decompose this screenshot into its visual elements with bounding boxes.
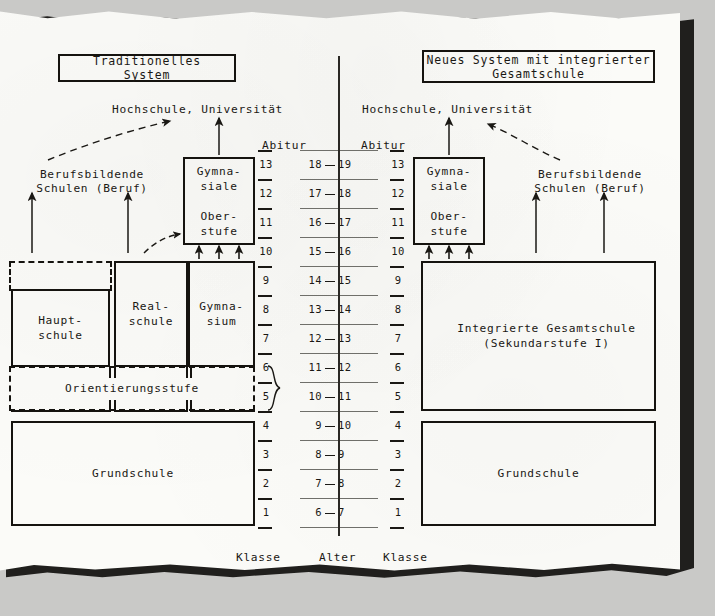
klasse-left-value-1: 1 (259, 506, 273, 518)
alter-dash-11 (325, 484, 335, 485)
klasse-right-value-10: 10 (391, 245, 405, 257)
alter-dash-9 (325, 426, 335, 427)
klasse-tick-left-10 (258, 440, 272, 442)
alter-from-value-12: 12 (300, 332, 322, 344)
klasse-left-value-10: 10 (259, 245, 273, 257)
axis-label-alter: Alter (319, 551, 356, 565)
klasse-right-value-7: 7 (391, 332, 405, 344)
alter-to-value-13: 13 (338, 332, 360, 344)
klasse-tick-right-11 (390, 469, 404, 471)
alter-to-value-19: 19 (338, 158, 360, 170)
alter-to-value-11: 11 (338, 390, 360, 402)
alter-dash-1 (325, 194, 335, 195)
klasse-left-value-4: 4 (259, 419, 273, 431)
alter-dash-12 (325, 513, 335, 514)
klasse-tick-right-6 (390, 324, 404, 326)
center-axis-line (338, 56, 340, 536)
klasse-tick-left-1 (258, 179, 272, 181)
alter-dash-7 (325, 368, 335, 369)
klasse-right-value-13: 13 (391, 158, 405, 170)
klasse-tick-left-9 (258, 411, 272, 413)
klasse-tick-left-7 (258, 353, 272, 355)
klasse-tick-right-8 (390, 382, 404, 384)
klasse-tick-right-0 (390, 150, 404, 152)
diagram-page: Traditionelles System Neues System mit i… (0, 0, 715, 616)
alter-from-value-16: 16 (300, 216, 322, 228)
klasse-tick-right-12 (390, 498, 404, 500)
klasse-tick-right-1 (390, 179, 404, 181)
klasse-right-value-1: 1 (391, 506, 405, 518)
klasse-tick-right-4 (390, 266, 404, 268)
klasse-left-value-9: 9 (259, 274, 273, 286)
alter-dash-2 (325, 223, 335, 224)
alter-from-value-7: 7 (300, 477, 322, 489)
klasse-right-value-11: 11 (391, 216, 405, 228)
alter-dash-4 (325, 281, 335, 282)
klasse-right-value-4: 4 (391, 419, 405, 431)
klasse-tick-left-3 (258, 237, 272, 239)
klasse-right-value-9: 9 (391, 274, 405, 286)
alter-dash-6 (325, 339, 335, 340)
klasse-tick-left-5 (258, 295, 272, 297)
klasse-left-value-13: 13 (259, 158, 273, 170)
klasse-left-value-11: 11 (259, 216, 273, 228)
klasse-left-value-5: 5 (259, 390, 273, 402)
axis-label-klasse-left: Klasse (236, 551, 281, 565)
alter-dash-5 (325, 310, 335, 311)
alter-to-value-9: 9 (338, 448, 360, 460)
alter-from-value-11: 11 (300, 361, 322, 373)
alter-to-value-7: 7 (338, 506, 360, 518)
klasse-tick-left-6 (258, 324, 272, 326)
alter-to-value-17: 17 (338, 216, 360, 228)
klasse-tick-right-13 (390, 527, 404, 529)
klasse-tick-right-5 (390, 295, 404, 297)
alter-to-value-16: 16 (338, 245, 360, 257)
klasse-right-value-12: 12 (391, 187, 405, 199)
klasse-tick-right-9 (390, 411, 404, 413)
age-class-scale: 1313181912121718111116171010151699141588… (0, 0, 715, 616)
alter-to-value-14: 14 (338, 303, 360, 315)
klasse-tick-left-12 (258, 498, 272, 500)
klasse-tick-left-2 (258, 208, 272, 210)
alter-from-value-9: 9 (300, 419, 322, 431)
klasse-left-value-3: 3 (259, 448, 273, 460)
klasse-left-value-2: 2 (259, 477, 273, 489)
klasse-left-value-6: 6 (259, 361, 273, 373)
alter-dash-3 (325, 252, 335, 253)
alter-to-value-12: 12 (338, 361, 360, 373)
alter-from-value-17: 17 (300, 187, 322, 199)
drawing-canvas: Traditionelles System Neues System mit i… (0, 0, 715, 616)
alter-dash-8 (325, 397, 335, 398)
alter-from-value-6: 6 (300, 506, 322, 518)
axis-label-klasse-right: Klasse (383, 551, 428, 565)
klasse-tick-left-11 (258, 469, 272, 471)
klasse-tick-left-4 (258, 266, 272, 268)
klasse-right-value-3: 3 (391, 448, 405, 460)
klasse-tick-right-2 (390, 208, 404, 210)
alter-dash-10 (325, 455, 335, 456)
klasse-tick-right-3 (390, 237, 404, 239)
klasse-tick-left-8 (258, 382, 272, 384)
alter-from-value-13: 13 (300, 303, 322, 315)
alter-from-value-14: 14 (300, 274, 322, 286)
alter-dash-0 (325, 165, 335, 166)
klasse-right-value-6: 6 (391, 361, 405, 373)
klasse-right-value-2: 2 (391, 477, 405, 489)
alter-from-value-18: 18 (300, 158, 322, 170)
klasse-left-value-12: 12 (259, 187, 273, 199)
alter-from-value-10: 10 (300, 390, 322, 402)
alter-to-value-10: 10 (338, 419, 360, 431)
klasse-left-value-8: 8 (259, 303, 273, 315)
alter-from-value-8: 8 (300, 448, 322, 460)
alter-to-value-8: 8 (338, 477, 360, 489)
alter-to-value-18: 18 (338, 187, 360, 199)
alter-from-value-15: 15 (300, 245, 322, 257)
klasse-tick-right-10 (390, 440, 404, 442)
klasse-tick-left-13 (258, 527, 272, 529)
klasse-right-value-5: 5 (391, 390, 405, 402)
klasse-right-value-8: 8 (391, 303, 405, 315)
klasse-tick-left-0 (258, 150, 272, 152)
alter-to-value-15: 15 (338, 274, 360, 286)
klasse-tick-right-7 (390, 353, 404, 355)
klasse-left-value-7: 7 (259, 332, 273, 344)
